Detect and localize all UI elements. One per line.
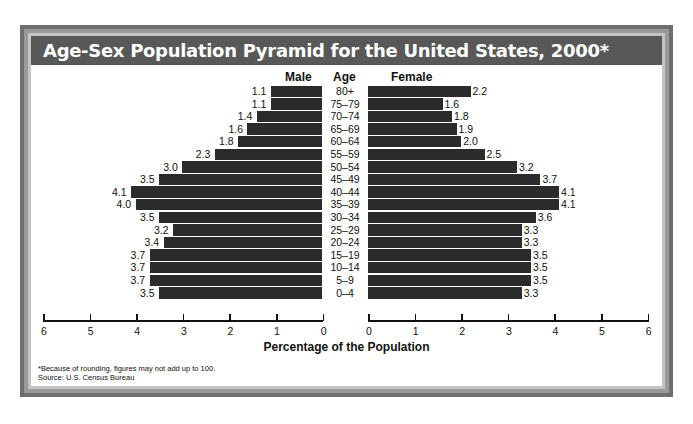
age-group-label: 45–49 — [322, 173, 368, 185]
age-group-label: 15–19 — [322, 249, 368, 261]
age-group-label: 0–4 — [322, 287, 368, 299]
male-value-label: 2.3 — [195, 148, 212, 160]
female-value-label: 4.1 — [560, 186, 577, 198]
male-value-label: 3.7 — [130, 261, 147, 273]
age-group-label: 65–69 — [322, 123, 368, 135]
female-value-label: 3.5 — [532, 249, 549, 261]
male-value-label: 3.0 — [162, 161, 179, 173]
female-value-label: 1.9 — [458, 123, 475, 135]
female-bar — [368, 123, 457, 135]
male-bar — [173, 224, 322, 236]
female-axis-tick — [461, 314, 463, 321]
female-value-label: 2.5 — [486, 148, 503, 160]
male-bar — [150, 275, 322, 287]
female-bar — [368, 111, 452, 123]
female-tick-label: 3 — [499, 325, 519, 337]
male-value-label: 1.8 — [218, 135, 235, 147]
female-value-label: 2.2 — [472, 85, 489, 97]
x-axis-label: Percentage of the Population — [0, 340, 693, 354]
female-bar — [368, 249, 531, 261]
chart-title: Age-Sex Population Pyramid for the Unite… — [31, 36, 662, 65]
female-bar — [368, 161, 517, 173]
male-tick-label: 4 — [127, 325, 147, 337]
male-axis-tick — [43, 314, 45, 321]
female-bar — [368, 136, 461, 148]
age-group-label: 35–39 — [322, 198, 368, 210]
male-value-label: 4.1 — [111, 186, 128, 198]
female-value-label: 3.5 — [532, 274, 549, 286]
female-bar — [368, 86, 471, 98]
female-tick-label: 0 — [359, 325, 379, 337]
age-group-label: 75–79 — [322, 98, 368, 110]
female-axis-tick — [368, 314, 370, 321]
male-tick-label: 1 — [267, 325, 287, 337]
female-value-label: 1.8 — [453, 110, 470, 122]
male-bar — [159, 174, 322, 186]
female-bar — [368, 287, 522, 299]
male-bar — [131, 186, 322, 198]
male-bar — [271, 98, 322, 110]
male-value-label: 3.5 — [139, 287, 156, 299]
male-value-label: 1.6 — [227, 123, 244, 135]
female-value-label: 1.6 — [444, 98, 461, 110]
male-bar — [159, 287, 322, 299]
female-value-label: 3.3 — [523, 287, 540, 299]
age-group-label: 40–44 — [322, 186, 368, 198]
female-axis-tick — [508, 314, 510, 321]
male-value-label: 4.0 — [116, 198, 133, 210]
age-group-label: 60–64 — [322, 135, 368, 147]
age-group-label: 25–29 — [322, 224, 368, 236]
female-axis-tick — [415, 314, 417, 321]
female-bar — [368, 98, 443, 110]
female-tick-label: 5 — [592, 325, 612, 337]
male-value-label: 3.2 — [153, 224, 170, 236]
female-value-label: 2.0 — [462, 135, 479, 147]
male-axis-tick — [276, 314, 278, 321]
age-group-label: 55–59 — [322, 148, 368, 160]
male-value-label: 3.5 — [139, 211, 156, 223]
male-value-label: 3.7 — [130, 274, 147, 286]
female-header: Female — [391, 70, 432, 84]
male-bar — [182, 161, 322, 173]
female-bar — [368, 186, 559, 198]
age-group-label: 50–54 — [322, 161, 368, 173]
female-bar — [368, 262, 531, 274]
female-value-label: 3.3 — [523, 224, 540, 236]
age-group-label: 20–24 — [322, 236, 368, 248]
female-bar — [368, 237, 522, 249]
female-tick-label: 1 — [406, 325, 426, 337]
female-bar — [368, 212, 536, 224]
female-bar — [368, 275, 531, 287]
source-note: Source: U.S. Census Bureau — [38, 373, 134, 382]
footnote: *Because of rounding, figures may not ad… — [38, 364, 215, 373]
age-header: Age — [333, 70, 356, 84]
male-bar — [164, 237, 322, 249]
female-tick-label: 2 — [452, 325, 472, 337]
female-axis-tick — [648, 314, 650, 321]
female-axis-tick — [554, 314, 556, 321]
female-value-label: 4.1 — [560, 198, 577, 210]
age-group-label: 5–9 — [322, 274, 368, 286]
age-group-label: 70–74 — [322, 110, 368, 122]
male-header: Male — [285, 70, 312, 84]
male-value-label: 1.4 — [237, 110, 254, 122]
male-axis-tick — [183, 314, 185, 321]
female-value-label: 3.6 — [537, 211, 554, 223]
male-value-label: 3.7 — [130, 249, 147, 261]
female-tick-label: 4 — [545, 325, 565, 337]
male-axis-tick — [323, 314, 325, 321]
male-value-label: 1.1 — [251, 98, 268, 110]
female-value-label: 3.3 — [523, 236, 540, 248]
female-axis-tick — [601, 314, 603, 321]
male-value-label: 3.5 — [139, 173, 156, 185]
male-tick-label: 2 — [220, 325, 240, 337]
female-bar — [368, 224, 522, 236]
age-group-label: 10–14 — [322, 261, 368, 273]
female-bar — [368, 174, 540, 186]
male-bar — [136, 199, 322, 211]
male-tick-label: 6 — [34, 325, 54, 337]
male-bar — [215, 149, 322, 161]
male-axis-tick — [229, 314, 231, 321]
male-tick-label: 0 — [314, 325, 334, 337]
age-group-label: 30–34 — [322, 211, 368, 223]
